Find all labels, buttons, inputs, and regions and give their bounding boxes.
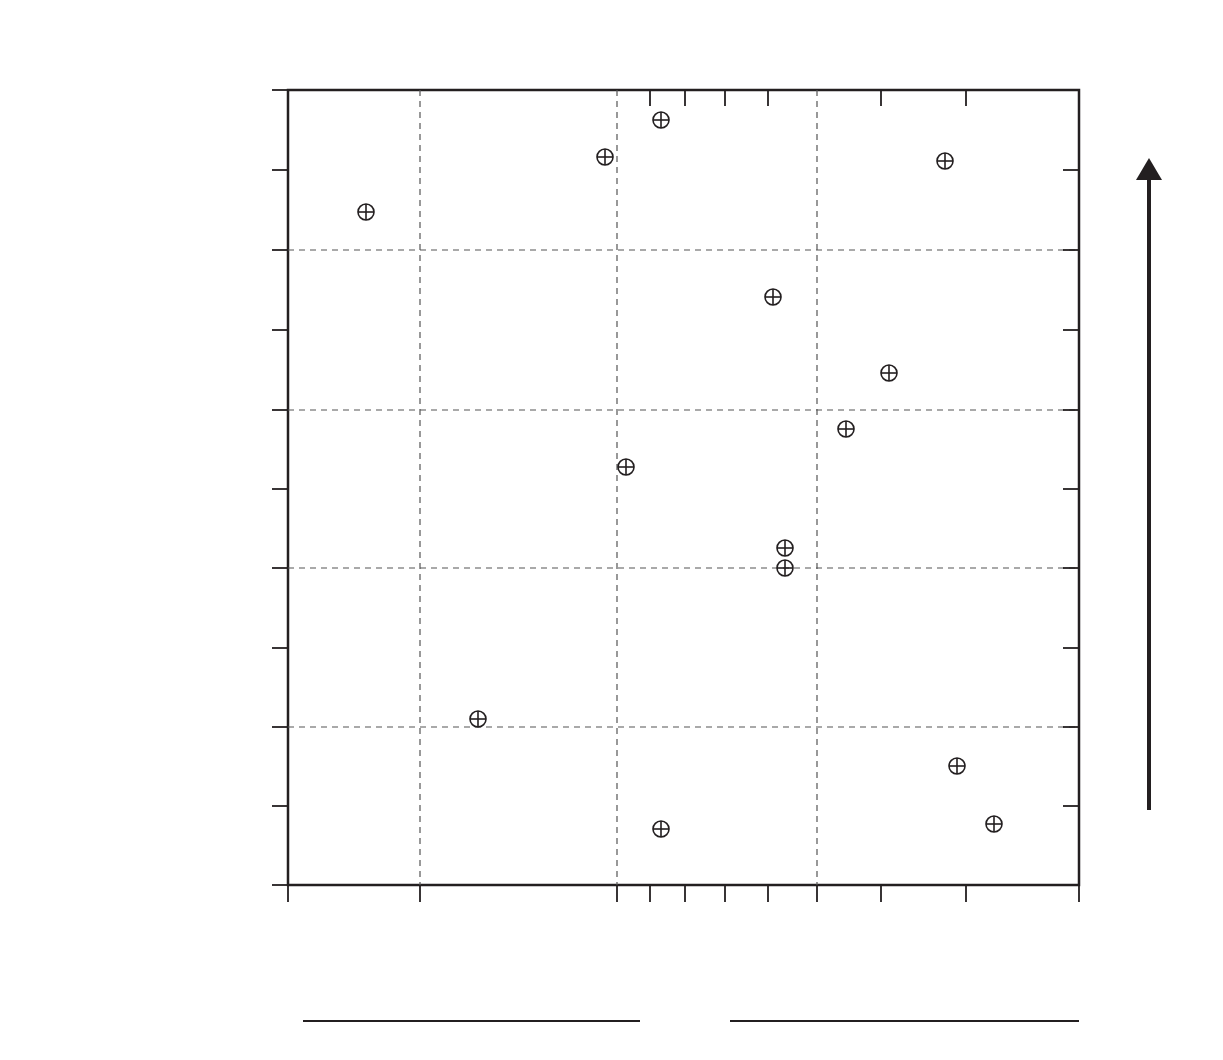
x-tick-marks bbox=[288, 90, 1079, 902]
deneb-marker-icon bbox=[653, 112, 669, 128]
procyon-b-marker-icon bbox=[653, 821, 669, 837]
labeled-star-markers bbox=[358, 112, 1002, 837]
pollux-marker-icon bbox=[838, 421, 854, 437]
mass-arrow bbox=[1136, 158, 1162, 810]
sirius-marker-icon bbox=[618, 459, 634, 475]
hr-diagram bbox=[0, 0, 1223, 1060]
polaris-marker-icon bbox=[765, 289, 781, 305]
alpha-centauri-marker-icon bbox=[777, 540, 793, 556]
betelgeuse-marker-icon bbox=[937, 153, 953, 169]
eridani-marker-icon bbox=[470, 711, 486, 727]
proxima-marker-icon bbox=[986, 816, 1002, 832]
aldebaran-marker-icon bbox=[881, 365, 897, 381]
sun-marker-icon bbox=[777, 560, 793, 576]
spica-marker-icon bbox=[358, 204, 374, 220]
barnards-star-marker-icon bbox=[949, 758, 965, 774]
rigel-marker-icon bbox=[597, 149, 613, 165]
arrow-up-icon bbox=[1136, 158, 1162, 180]
